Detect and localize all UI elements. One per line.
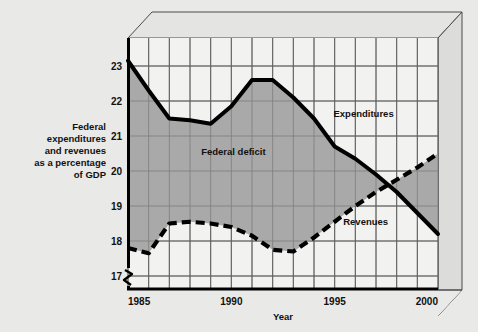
y-tick-label: 21 (111, 131, 123, 142)
y-axis-title-line-2: expenditures (47, 133, 106, 144)
label-federal-deficit: Federal deficit (201, 146, 266, 157)
panel-right-face (438, 12, 462, 316)
x-tick-label: 1995 (324, 296, 347, 307)
x-tick-label: 1985 (128, 296, 151, 307)
panel-top-face (128, 12, 462, 38)
y-tick-label: 17 (111, 271, 123, 282)
x-tick-label: 1990 (220, 296, 243, 307)
x-tick-label: 2000 (416, 296, 439, 307)
y-axis-title-line-5: of GDP (74, 169, 107, 180)
federal-budget-chart: 17181920212223 1985199019952000 Federal … (0, 0, 478, 332)
y-axis-title-line-4: as a percentage (34, 157, 106, 168)
y-axis-title-line-1: Federal (72, 121, 106, 132)
y-tick-label: 20 (111, 166, 123, 177)
y-axis-title-line-3: and revenues (45, 145, 106, 156)
y-tick-label: 19 (111, 201, 123, 212)
x-axis-title: Year (273, 311, 293, 322)
y-tick-label: 22 (111, 96, 123, 107)
y-tick-label: 18 (111, 236, 123, 247)
panel-bottom-face (128, 290, 462, 316)
y-tick-label: 23 (111, 61, 123, 72)
label-expenditures: Expenditures (334, 108, 394, 119)
label-revenues: Revenues (343, 216, 388, 227)
chart-root: 17181920212223 1985199019952000 Federal … (0, 0, 478, 332)
